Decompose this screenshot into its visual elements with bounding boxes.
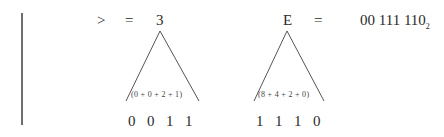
bit-left-4: 1 — [185, 114, 193, 129]
bit-left-2: 0 — [147, 114, 155, 129]
hex-symbol-e: E — [283, 13, 292, 28]
bit-right-3: 1 — [294, 114, 302, 129]
equals-sign-2: = — [314, 13, 322, 28]
base-subscript: 2 — [426, 22, 430, 31]
equals-sign-1: = — [125, 13, 133, 28]
sum-expression-left: (0 + 0 + 2 + 1) — [131, 91, 182, 99]
bit-right-4: 0 — [313, 114, 321, 129]
decimal-value: 3 — [156, 13, 164, 28]
bit-right-1: 1 — [256, 114, 264, 129]
sum-expression-right: (8 + 4 + 2 + 0) — [258, 91, 309, 99]
greater-than-symbol: > — [97, 13, 105, 28]
bit-left-3: 1 — [166, 114, 174, 129]
bit-left-1: 0 — [128, 114, 136, 129]
binary-value: 00 111 1102 — [360, 13, 430, 34]
bit-right-2: 1 — [275, 114, 283, 129]
